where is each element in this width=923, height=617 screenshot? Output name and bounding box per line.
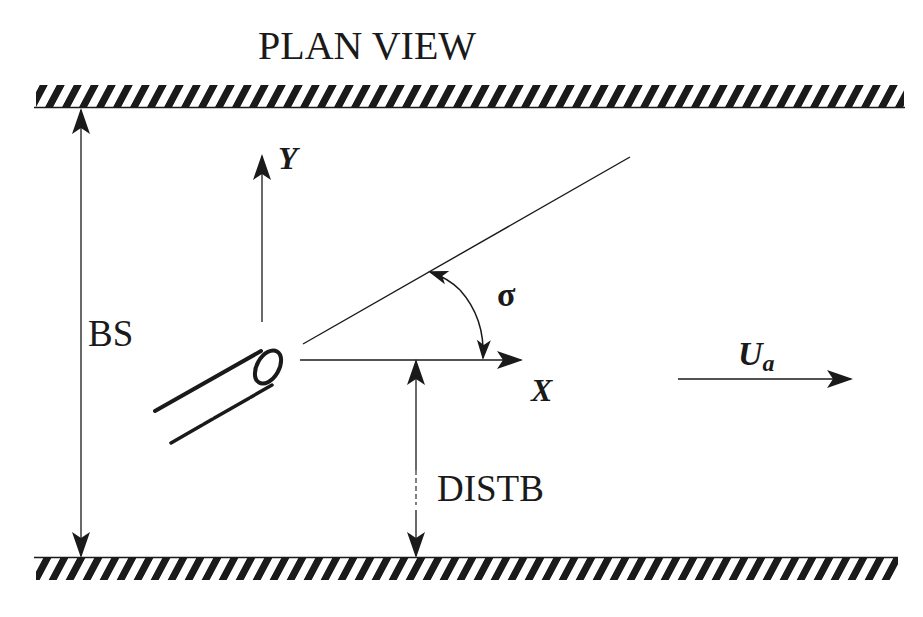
- angle-sigma-arc: [430, 272, 483, 358]
- angle-sigma-label: σ: [497, 278, 516, 312]
- ambient-velocity-label: Ua: [738, 337, 775, 375]
- ambient-velocity-subscript: a: [763, 350, 775, 376]
- discharge-pipe-icon: [155, 346, 287, 443]
- distb-label: DISTB: [437, 470, 544, 507]
- discharge-direction-line: [303, 157, 630, 344]
- bottom-bank-wall: [34, 558, 898, 581]
- top-bank-wall: [34, 85, 905, 108]
- diagram-title: PLAN VIEW: [258, 26, 476, 66]
- bs-label: BS: [88, 315, 133, 352]
- x-axis-label: X: [531, 374, 552, 406]
- ambient-velocity-symbol: U: [738, 335, 763, 372]
- y-axis-label: Y: [278, 142, 298, 174]
- plan-view-diagram: [0, 0, 923, 617]
